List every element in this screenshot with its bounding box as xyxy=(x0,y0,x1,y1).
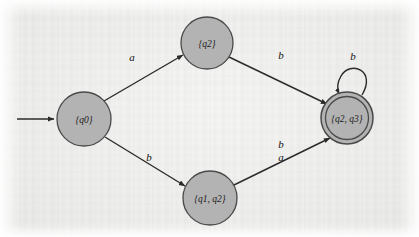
state-label-q1q2: {q1, q2} xyxy=(194,194,226,204)
edge-q0-to-q2 xyxy=(104,55,183,101)
state-node-q0[interactable]: {q0} xyxy=(57,92,111,146)
state-label-q2: {q2} xyxy=(198,39,215,49)
edge-label-q0-q1q2: b xyxy=(146,151,152,163)
state-node-q2[interactable]: {q2} xyxy=(181,17,233,69)
edge-label-q0-q2: a xyxy=(129,51,135,63)
automaton-diagram-canvas: {q0} {q2} {q1, q2} {q2, q3} a b b b a b xyxy=(0,0,419,237)
edge-label-self-loop-q2q3: b xyxy=(350,50,356,62)
self-loop-q2q3 xyxy=(338,68,367,95)
edge-label-q2-q2q3: b xyxy=(278,49,284,61)
edge-label-q1q2-q2q3-a: a xyxy=(278,151,284,163)
state-node-q2q3-accepting[interactable]: {q2, q3} xyxy=(321,92,373,144)
edge-q2-to-q2q3 xyxy=(229,57,327,104)
edge-q0-to-q1q2 xyxy=(105,137,185,186)
state-label-q0: {q0} xyxy=(75,115,92,125)
state-node-q1q2[interactable]: {q1, q2} xyxy=(183,171,237,225)
state-label-q2q3: {q2, q3} xyxy=(331,114,363,124)
edge-label-q1q2-q2q3-b: b xyxy=(278,138,284,150)
state-diagram-graph: {q0} {q2} {q1, q2} {q2, q3} a b b b a b xyxy=(0,0,419,237)
